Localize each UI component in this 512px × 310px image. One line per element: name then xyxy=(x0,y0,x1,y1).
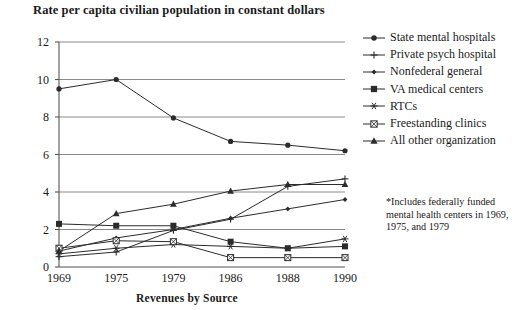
legend-item[interactable]: VA medical centers xyxy=(361,81,511,98)
x-tick-label: 1990 xyxy=(320,272,370,284)
x-tick-label: 1986 xyxy=(206,272,256,284)
x-axis-label: Revenues by Source xyxy=(22,292,352,304)
chart-root: Rate per capita civilian population in c… xyxy=(0,0,512,310)
footnote-text: *Includes federally funded mental health… xyxy=(386,196,512,234)
asterisk-icon xyxy=(361,99,387,113)
y-tick-label: 8 xyxy=(19,111,49,123)
filled-square-icon xyxy=(361,82,387,96)
series-line xyxy=(59,224,345,248)
legend-item[interactable]: Freestanding clinics xyxy=(361,115,511,132)
y-tick-label: 6 xyxy=(19,149,49,161)
y-tick-label: 4 xyxy=(19,186,49,198)
legend-label: Freestanding clinics xyxy=(387,116,486,131)
series-markers xyxy=(56,77,349,261)
legend-label: State mental hospitals xyxy=(387,30,495,45)
legend-label: VA medical centers xyxy=(387,82,483,97)
filled-triangle-icon xyxy=(361,134,387,148)
series-lines xyxy=(59,80,345,258)
y-tick-label: 2 xyxy=(19,224,49,236)
legend-item[interactable]: Nonfederal general xyxy=(361,63,511,80)
chart-legend: State mental hospitalsPrivate psych hosp… xyxy=(361,29,511,149)
x-tick-label: 1988 xyxy=(263,272,313,284)
legend-item[interactable]: RTCs xyxy=(361,98,511,115)
y-tick-label: 10 xyxy=(19,74,49,86)
x-tick-label: 1975 xyxy=(91,272,141,284)
legend-label: All other organization xyxy=(387,133,496,148)
series-line xyxy=(59,80,345,151)
x-tick-label: 1979 xyxy=(148,272,198,284)
x-tick-label: 1969 xyxy=(34,272,84,284)
open-square-cross-icon xyxy=(361,117,387,131)
legend-item[interactable]: State mental hospitals xyxy=(361,29,511,46)
legend-item[interactable]: All other organization xyxy=(361,132,511,149)
legend-item[interactable]: Private psych hospital xyxy=(361,46,511,63)
legend-label: RTCs xyxy=(387,99,417,114)
filled-circle-icon xyxy=(361,31,387,45)
plus-icon xyxy=(361,48,387,62)
gridlines xyxy=(59,42,345,230)
y-tick-label: 12 xyxy=(19,36,49,48)
small-diamond-icon xyxy=(361,65,387,79)
legend-label: Nonfederal general xyxy=(387,64,482,79)
legend-label: Private psych hospital xyxy=(387,47,496,62)
